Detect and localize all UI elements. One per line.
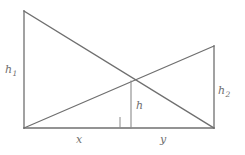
right-angle-marker-icon xyxy=(120,117,131,128)
label-h2: h2 xyxy=(218,85,230,96)
diagonal-topleft-bottomright xyxy=(24,11,214,128)
label-h1-base: h xyxy=(5,63,12,76)
label-y: y xyxy=(160,134,166,145)
label-h1-subscript: 1 xyxy=(13,69,18,78)
label-h: h xyxy=(136,100,143,111)
geometry-figure: h1 h2 h x y xyxy=(0,0,245,155)
label-h1: h1 xyxy=(5,64,17,75)
label-h2-subscript: 2 xyxy=(226,90,231,99)
label-x: x xyxy=(76,134,82,145)
label-h2-base: h xyxy=(218,84,225,97)
diagonal-bottomleft-topright xyxy=(24,46,214,128)
geometry-canvas xyxy=(0,0,245,155)
